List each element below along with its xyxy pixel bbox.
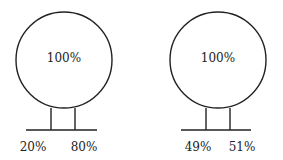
right-share-b: 51% [229, 140, 256, 154]
left-share-b: 80% [71, 140, 98, 154]
left-share-a: 20% [20, 140, 47, 154]
diagram-right [170, 12, 266, 130]
diagram-left [16, 12, 112, 130]
circle-left-label: 100% [47, 51, 81, 65]
right-share-a: 49% [185, 140, 212, 154]
circle-right-label: 100% [201, 51, 235, 65]
diagram-canvas: 100% 20% 80% 100% 49% 51% [0, 0, 283, 160]
